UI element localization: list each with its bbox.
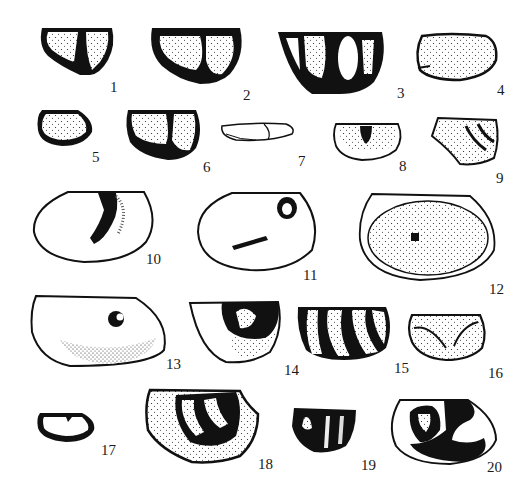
figure-6-drawing <box>126 110 200 160</box>
figure-label-5: 5 <box>92 150 100 165</box>
figure-label-9: 9 <box>496 171 504 186</box>
figure-19-drawing <box>292 408 356 452</box>
figure-label-18: 18 <box>258 457 273 472</box>
figure-1-drawing <box>41 28 113 75</box>
figure-20-drawing <box>392 400 496 464</box>
plate-drawings <box>0 0 532 498</box>
figure-8-drawing <box>334 124 401 160</box>
figure-10-drawing <box>34 192 153 262</box>
figure-label-7: 7 <box>298 154 306 169</box>
figure-label-8: 8 <box>399 159 407 174</box>
fossil-plate: 1 2 3 4 5 6 7 8 9 10 11 12 13 14 15 16 1… <box>0 0 532 498</box>
figure-12-drawing <box>360 194 495 280</box>
figure-15-drawing <box>298 307 390 360</box>
figure-label-11: 11 <box>303 268 317 283</box>
figure-label-14: 14 <box>284 363 299 378</box>
figure-13-drawing <box>32 296 165 366</box>
figure-3-drawing <box>278 32 384 94</box>
figure-label-13: 13 <box>166 357 181 372</box>
figure-4-drawing <box>417 34 496 80</box>
figure-9-drawing <box>432 118 498 164</box>
figure-18-drawing <box>146 390 258 462</box>
figure-16-drawing <box>409 315 485 360</box>
figure-label-1: 1 <box>110 80 118 95</box>
figure-7-drawing <box>222 123 293 140</box>
figure-label-16: 16 <box>488 366 503 381</box>
figure-17-drawing <box>37 413 94 442</box>
figure-label-2: 2 <box>243 88 251 103</box>
figure-2-drawing <box>151 28 242 84</box>
figure-label-17: 17 <box>101 443 116 458</box>
figure-label-10: 10 <box>146 252 161 267</box>
figure-label-15: 15 <box>394 361 409 376</box>
figure-11-drawing <box>198 193 315 270</box>
figure-5-drawing <box>38 110 93 146</box>
figure-label-4: 4 <box>497 83 505 98</box>
figure-label-6: 6 <box>203 160 211 175</box>
figure-label-12: 12 <box>489 282 504 297</box>
figure-label-20: 20 <box>487 460 502 475</box>
figure-label-19: 19 <box>361 458 376 473</box>
figure-14-drawing <box>190 302 280 362</box>
figure-label-3: 3 <box>397 86 405 101</box>
